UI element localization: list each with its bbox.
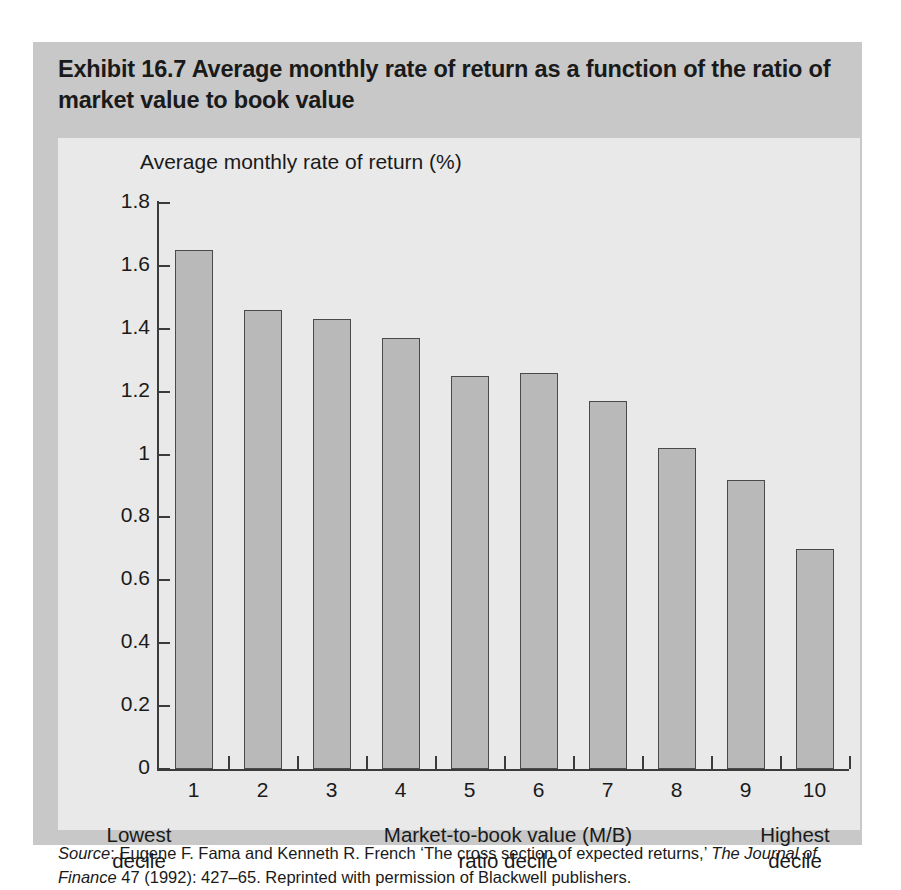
y-tick [159,391,170,393]
y-tick-label: 1.6 [80,252,150,276]
y-axis-title: Average monthly rate of return (%) [140,150,462,174]
x-tick [504,756,506,769]
source-note: Source: Eugene F. Fama and Kenneth R. Fr… [58,842,848,890]
source-text: : Eugene F. Fama and Kenneth R. French ‘… [110,844,711,862]
bar-decile-8 [658,448,696,769]
y-tick-label: 0 [80,755,150,779]
y-tick [159,516,170,518]
y-tick-label: 0.6 [80,566,150,590]
x-tick [297,756,299,769]
x-tick-label-9: 9 [723,778,769,802]
x-tick [573,756,575,769]
y-tick [159,454,170,456]
bar-decile-3 [313,319,351,769]
x-tick [642,756,644,769]
x-tick-label-10: 10 [792,778,838,802]
y-tick [159,705,170,707]
x-tick-label-6: 6 [516,778,562,802]
y-tick [159,328,170,330]
y-tick [159,265,170,267]
y-tick-label: 0.8 [80,503,150,527]
bar-decile-2 [244,310,282,769]
y-tick-label: 0.4 [80,629,150,653]
x-tick [228,756,230,769]
bar-decile-1 [175,250,213,769]
y-tick [159,768,170,770]
source-label: Source [58,844,110,862]
x-tick-label-3: 3 [309,778,355,802]
x-tick-label-7: 7 [585,778,631,802]
exhibit-title: Exhibit 16.7 Average monthly rate of ret… [58,54,838,117]
chart-plot-area: Average monthly rate of return (%) 00.20… [58,138,860,830]
y-tick [159,202,170,204]
y-tick [159,642,170,644]
x-tick-label-1: 1 [171,778,217,802]
y-tick-label: 1 [80,441,150,465]
x-tick [366,756,368,769]
x-tick [711,756,713,769]
y-tick [159,579,170,581]
x-tick-label-8: 8 [654,778,700,802]
bar-decile-4 [382,338,420,769]
bar-decile-5 [451,376,489,769]
bar-decile-10 [796,549,834,769]
y-tick-label: 0.2 [80,692,150,716]
x-tick [849,756,851,769]
x-tick [435,756,437,769]
y-tick-label: 1.2 [80,378,150,402]
figure-card: Average monthly rate of return (%) 00.20… [58,138,860,830]
source-tail: 47 (1992): 427–65. Reprinted with permis… [117,868,632,886]
y-tick-label: 1.8 [80,189,150,213]
x-tick-label-2: 2 [240,778,286,802]
x-tick [780,756,782,769]
exhibit-panel: Exhibit 16.7 Average monthly rate of ret… [33,42,862,845]
x-axis-line [157,769,849,771]
x-tick-label-5: 5 [447,778,493,802]
bar-decile-6 [520,373,558,769]
bar-decile-9 [727,480,765,769]
bar-decile-7 [589,401,627,769]
y-tick-label: 1.4 [80,315,150,339]
y-axis-line [157,201,159,771]
x-tick-label-4: 4 [378,778,424,802]
